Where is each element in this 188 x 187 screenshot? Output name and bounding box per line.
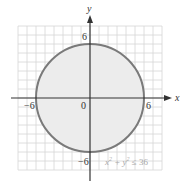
y-axis-label: y [86, 3, 92, 14]
x-axis-label: x [174, 92, 180, 103]
x-axis-arrow-icon [164, 95, 172, 101]
tick-x-neg6: −6 [24, 100, 35, 111]
tick-x-pos6: 6 [146, 100, 151, 111]
circle-inequality-plot: x y −6 0 6 6 −6 x2 + y2 ≤ 36 [0, 0, 188, 187]
tick-origin: 0 [81, 100, 86, 111]
tick-y-pos6: 6 [82, 31, 87, 42]
inequality-annotation: x2 + y2 ≤ 36 [104, 156, 149, 167]
tick-y-neg6: −6 [78, 156, 89, 167]
y-axis-arrow-icon [87, 15, 93, 23]
